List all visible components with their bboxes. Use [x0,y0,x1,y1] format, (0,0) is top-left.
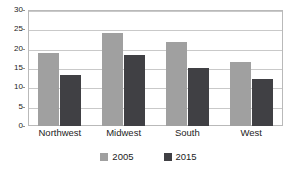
legend: 20052015 [0,152,297,162]
y-tick-mark [22,49,25,50]
y-tick-mark [22,107,25,108]
bar-group [166,10,209,126]
legend-label: 2005 [112,152,133,162]
bar-2015-west[interactable] [252,79,273,126]
legend-entry-2015[interactable]: 2015 [164,152,197,162]
bar-group [38,10,81,126]
y-tick-mark [22,87,25,88]
bar-group [102,10,145,126]
y-tick-mark [22,29,25,30]
y-tick-mark [22,10,25,11]
bar-2005-midwest[interactable] [102,33,123,126]
y-axis: 051015202530 [0,10,25,126]
bar-2015-northwest[interactable] [60,75,81,126]
y-tick-mark [22,68,25,69]
x-tick-label: South [175,128,200,138]
bar-chart: 051015202530 NorthwestMidwestSouthWest 2… [0,0,297,175]
bar-2015-midwest[interactable] [124,55,145,126]
bar-2005-west[interactable] [230,62,251,126]
bar-group [230,10,273,126]
x-tick-label: West [240,128,261,138]
x-axis: NorthwestMidwestSouthWest [28,128,283,144]
x-tick-label: Midwest [106,128,141,138]
legend-entry-2005[interactable]: 2005 [100,152,133,162]
bar-2015-south[interactable] [188,68,209,126]
legend-swatch-icon [164,153,172,161]
bars-layer [28,10,283,126]
legend-label: 2015 [176,152,197,162]
bar-2005-south[interactable] [166,42,187,126]
legend-swatch-icon [100,153,108,161]
x-tick-label: Northwest [38,128,81,138]
y-tick-mark [22,126,25,127]
bar-2005-northwest[interactable] [38,53,59,126]
